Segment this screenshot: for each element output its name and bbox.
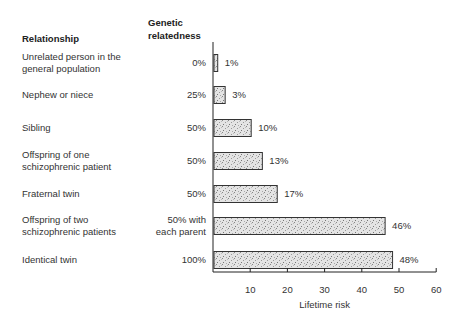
category-label: Fraternal twin — [22, 188, 80, 199]
relatedness-label: 25% — [187, 89, 207, 100]
header-genetic-line2: relatedness — [148, 30, 201, 41]
relatedness-label: 0% — [192, 57, 206, 68]
x-tick-label: 30 — [319, 284, 330, 295]
category-label: Sibling — [22, 122, 51, 133]
bar — [214, 55, 218, 72]
bar — [214, 186, 277, 203]
value-label: 10% — [258, 122, 278, 133]
value-label: 17% — [284, 188, 304, 199]
x-tick-label: 60 — [431, 284, 442, 295]
relatedness-label: 100% — [182, 254, 207, 265]
bar — [214, 218, 385, 235]
chart-row: Identical twin100%48% — [22, 252, 419, 269]
value-label: 48% — [400, 254, 420, 265]
relatedness-label: 50% — [187, 122, 207, 133]
x-tick-label: 20 — [282, 284, 293, 295]
relatedness-label: 50% — [187, 188, 207, 199]
x-tick-label: 50 — [394, 284, 405, 295]
header-relationship: Relationship — [22, 33, 79, 44]
chart-row: Fraternal twin50%17% — [22, 186, 304, 203]
category-label: schizophrenic patients — [22, 226, 116, 237]
chart-row: Sibling50%10% — [22, 120, 278, 137]
category-label: Identical twin — [22, 254, 77, 265]
category-label: Offspring of two — [22, 214, 88, 225]
relatedness-label: 50% — [187, 155, 207, 166]
header-genetic-line1: Genetic — [148, 17, 183, 28]
chart-row: Offspring of oneschizophrenic patient50%… — [22, 149, 289, 172]
category-label: general population — [22, 63, 100, 74]
relatedness-label: 50% with — [167, 214, 206, 225]
x-tick-label: 10 — [245, 284, 256, 295]
bar — [214, 87, 225, 104]
chart-row: Unrelated person in thegeneral populatio… — [22, 51, 239, 74]
chart-row: Offspring of twoschizophrenic patients50… — [22, 214, 412, 237]
bar — [214, 120, 251, 137]
bar — [214, 153, 262, 170]
x-tick-label: 40 — [357, 284, 368, 295]
value-label: 3% — [232, 89, 246, 100]
value-label: 13% — [269, 155, 289, 166]
bar — [214, 252, 393, 269]
category-label: Nephew or niece — [22, 89, 93, 100]
relatedness-label: each parent — [156, 226, 207, 237]
value-label: 46% — [392, 220, 412, 231]
category-label: Offspring of one — [22, 149, 89, 160]
x-axis-label: Lifetime risk — [299, 299, 350, 310]
category-label: Unrelated person in the — [22, 51, 121, 62]
value-label: 1% — [225, 57, 239, 68]
category-label: schizophrenic patient — [22, 161, 112, 172]
bar-chart: Relationship Genetic relatedness Unrelat… — [0, 0, 466, 329]
